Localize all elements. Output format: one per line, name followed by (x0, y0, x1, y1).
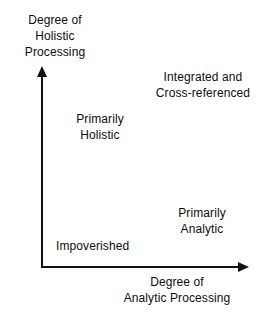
x-axis-arrowhead-icon (238, 262, 249, 272)
y-axis-line (41, 76, 43, 268)
x-axis-line (41, 266, 241, 268)
y-axis-label: Degree of Holistic Processing (8, 12, 102, 60)
y-axis-arrowhead-icon (37, 66, 47, 77)
quadrant-label-primarily-holistic: Primarily Holistic (56, 111, 144, 143)
quadrant-diagram: Degree of Holistic Processing Degree of … (0, 0, 271, 313)
quadrant-label-integrated: Integrated and Cross-referenced (141, 69, 265, 101)
quadrant-label-primarily-analytic: Primarily Analytic (166, 205, 238, 237)
quadrant-label-impoverished: Impoverished (56, 238, 166, 254)
x-axis-label: Degree of Analytic Processing (104, 274, 250, 306)
